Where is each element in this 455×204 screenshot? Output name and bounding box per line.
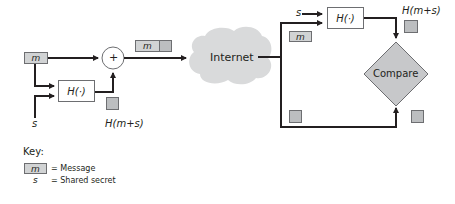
arrow-hash-to-plus: [95, 73, 113, 92]
sender-message-box: m: [24, 52, 48, 64]
receiver-mac-label: H(m+s): [402, 6, 441, 16]
diagram-canvas: [0, 0, 455, 204]
internet-label: Internet: [210, 52, 254, 63]
sender-hash-label: H(·): [67, 86, 86, 97]
packet-message-part: m: [135, 40, 160, 52]
packet-mac-part: [159, 40, 172, 52]
sender-hash-function-box: H(·): [58, 80, 95, 102]
receiver-hash-function-box: H(·): [327, 7, 364, 29]
arrow-m-to-hash: [35, 63, 54, 86]
receiver-computed-mac-square: [404, 20, 418, 33]
sender-secret-label: s: [32, 119, 37, 129]
sender-plus-label: +: [109, 52, 118, 63]
arrow-receiver-hash-to-compare: [363, 18, 396, 38]
key-secret-symbol: s: [33, 176, 38, 185]
key-title: Key:: [23, 147, 44, 157]
key-message-symbol-box: m: [24, 163, 47, 174]
packet-message-label: m: [143, 41, 152, 51]
key-message-description: = Message: [51, 165, 95, 173]
sender-message-label: m: [32, 53, 41, 63]
sender-mac-label: H(m+s): [105, 119, 144, 129]
key-message-symbol: m: [31, 164, 40, 174]
sender-mac-square: [106, 97, 119, 110]
receiver-hash-label: H(·): [336, 13, 355, 24]
received-mac-square-left: [289, 110, 302, 123]
receiver-message-label: m: [296, 32, 305, 42]
key-secret-description: = Shared secret: [51, 177, 116, 185]
receiver-message-box: m: [289, 31, 312, 42]
received-mac-square-right: [411, 110, 424, 123]
receiver-secret-label: s: [296, 8, 301, 18]
compare-label: Compare: [373, 69, 418, 79]
arrow-s-to-hash: [35, 96, 54, 118]
